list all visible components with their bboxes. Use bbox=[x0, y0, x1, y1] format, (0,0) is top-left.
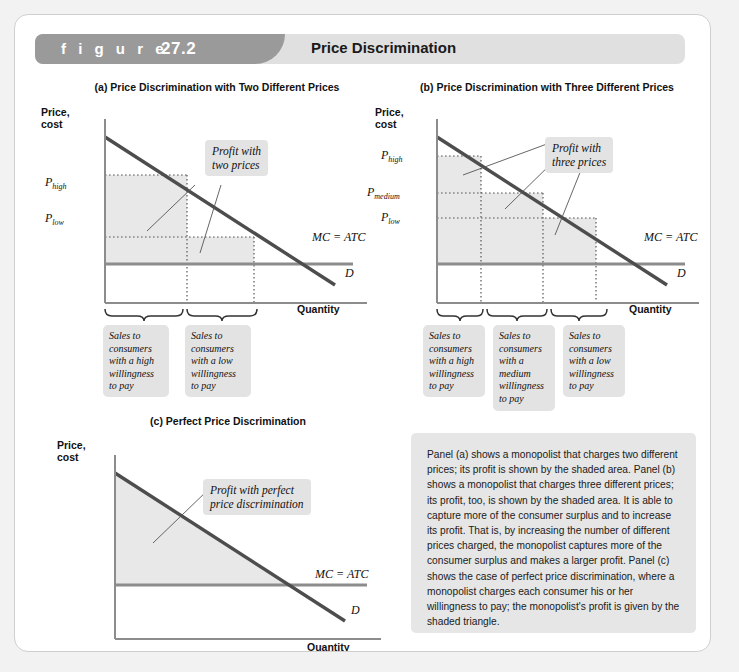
panel-a-y-axis-label: Price, cost bbox=[41, 106, 70, 130]
panel-c-title: (c) Perfect Price Discrimination bbox=[103, 415, 353, 427]
callout-line-1: Profit with bbox=[212, 145, 261, 157]
price-text: Price, bbox=[57, 439, 86, 451]
panel-a-price-high-label: Phigh bbox=[45, 175, 67, 191]
bracket-high bbox=[437, 309, 483, 321]
p-subscript: high bbox=[52, 182, 66, 191]
callout-line-2: three prices bbox=[552, 156, 606, 168]
bracket-low bbox=[551, 309, 607, 321]
panel-a-demand-label: D bbox=[345, 266, 354, 281]
panel-b-shade-low bbox=[543, 218, 596, 264]
panel-a-mc-atc-label: MC = ATC bbox=[312, 230, 365, 245]
callout-line-2: price discrimination bbox=[210, 498, 304, 510]
figure-card: f i g u r e 27.2 Price Discrimination (a… bbox=[14, 14, 711, 652]
panel-b-x-axis-label: Quantity bbox=[629, 303, 672, 315]
panel-b-demand-label: D bbox=[677, 266, 686, 281]
panel-a-shade-high bbox=[105, 175, 187, 237]
callout-line-1: Profit with perfect bbox=[210, 484, 294, 496]
figure-title: Price Discrimination bbox=[311, 39, 456, 56]
panel-a-shade-low bbox=[187, 237, 254, 264]
cost-text: cost bbox=[375, 118, 397, 130]
figure-caption: Panel (a) shows a monopolist that charge… bbox=[411, 433, 696, 633]
panel-a-price-low-label: Plow bbox=[45, 211, 64, 227]
panel-a-sales-box-high: Sales to consumers with a high willingne… bbox=[103, 325, 169, 397]
panel-b-mc-atc-label: MC = ATC bbox=[644, 230, 697, 245]
p-subscript: low bbox=[388, 217, 400, 226]
panel-a-profit-callout: Profit with two prices bbox=[205, 140, 268, 176]
price-text: Price, bbox=[41, 106, 70, 118]
panel-b-price-low-label: Plow bbox=[381, 210, 400, 226]
bracket-low bbox=[187, 309, 257, 321]
bracket-high bbox=[105, 309, 183, 321]
panel-b-sales-box-low: Sales to consumers with a low willingnes… bbox=[563, 325, 625, 397]
panel-c-mc-atc-label: MC = ATC bbox=[315, 567, 368, 582]
panel-a-brackets bbox=[103, 306, 283, 324]
figure-header-banner: f i g u r e 27.2 Price Discrimination bbox=[35, 34, 685, 64]
panel-a-sales-box-low: Sales to consumers with a low willingnes… bbox=[185, 325, 251, 397]
panel-a-shade-high-lower bbox=[105, 237, 187, 264]
panel-a-title: (a) Price Discrimination with Two Differ… bbox=[77, 81, 357, 93]
panel-c-y-axis-label: Price, cost bbox=[57, 439, 86, 463]
figure-number-label: 27.2 bbox=[161, 39, 196, 59]
panel-b-shade-high bbox=[437, 156, 481, 264]
panel-b-sales-box-high: Sales to consumers with a high willingne… bbox=[423, 325, 485, 397]
cost-text: cost bbox=[41, 118, 63, 130]
p-subscript: high bbox=[388, 155, 402, 164]
callout-line-1: Profit with bbox=[552, 142, 601, 154]
panel-c-demand-label: D bbox=[351, 603, 360, 618]
panel-b-sales-box-medium: Sales to consumers with a medium willing… bbox=[493, 325, 555, 411]
p-subscript: low bbox=[52, 218, 64, 227]
panel-b-brackets bbox=[435, 306, 635, 324]
callout-line-2: two prices bbox=[212, 159, 260, 171]
panel-b-profit-callout: Profit with three prices bbox=[545, 137, 613, 173]
price-text: Price, bbox=[375, 106, 404, 118]
figure-word-label: f i g u r e bbox=[61, 40, 168, 57]
cost-text: cost bbox=[57, 451, 79, 463]
panel-a-x-axis-label: Quantity bbox=[297, 303, 340, 315]
panel-b-price-high-label: Phigh bbox=[381, 148, 403, 164]
panel-c-x-axis-label: Quantity bbox=[307, 641, 350, 652]
bracket-medium bbox=[487, 309, 547, 321]
panel-b-shade-medium bbox=[481, 193, 543, 264]
panel-b-title: (b) Price Discrimination with Three Diff… bbox=[397, 81, 697, 93]
panel-c-profit-callout: Profit with perfect price discrimination bbox=[203, 479, 311, 515]
p-subscript: medium bbox=[374, 192, 399, 201]
panel-b-price-medium-label: Pmedium bbox=[367, 185, 400, 201]
panel-b-y-axis-label: Price, cost bbox=[375, 106, 404, 130]
